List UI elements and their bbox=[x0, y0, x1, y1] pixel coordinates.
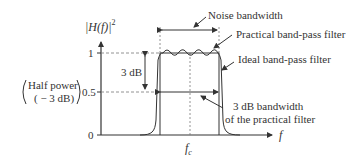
y-tick-1: 1 bbox=[88, 47, 94, 59]
svg-text:Half power: Half power bbox=[28, 79, 78, 91]
band-pass-filter-diagram: |H(f)|2 1 0.5 0 Half power ( − 3 dB) 3 d… bbox=[0, 0, 355, 161]
ideal-filter-curve bbox=[160, 53, 219, 135]
practical-filter-label: Practical band-pass filter bbox=[236, 28, 346, 40]
svg-text:( − 3 dB): ( − 3 dB) bbox=[34, 92, 74, 105]
three-db-bw-pointer bbox=[201, 96, 223, 108]
practical-filter-pointer bbox=[214, 35, 232, 48]
y-tick-0.5: 0.5 bbox=[82, 86, 96, 98]
ideal-filter-label: Ideal band-pass filter bbox=[238, 53, 331, 65]
noise-bw-label: Noise bandwidth bbox=[208, 9, 283, 21]
y-axis-label: |H(f)|2 bbox=[85, 18, 116, 34]
x-axis-label: f bbox=[279, 128, 284, 142]
noise-bw-pointer bbox=[194, 17, 206, 27]
half-power-label: Half power ( − 3 dB) bbox=[23, 79, 80, 105]
three-db-bw-label-line2: of the practical filter bbox=[225, 113, 315, 125]
ideal-filter-pointer bbox=[222, 62, 234, 70]
three-db-label: 3 dB bbox=[121, 66, 142, 78]
three-db-bw-label-line1: 3 dB bandwidth bbox=[233, 100, 304, 112]
center-freq-label: fc bbox=[185, 141, 192, 157]
y-tick-0: 0 bbox=[88, 129, 94, 141]
